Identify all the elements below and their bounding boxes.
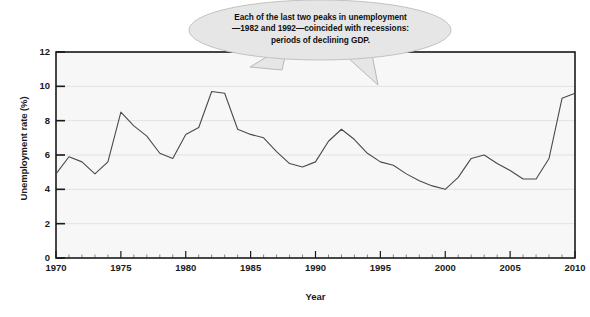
x-tick-label-1995: 1995	[360, 262, 400, 273]
recession-callout: Each of the last two peaks in unemployme…	[192, 1, 449, 65]
callout-text: Each of the last two peaks in unemployme…	[192, 12, 449, 46]
x-tick-label-1980: 1980	[166, 262, 206, 273]
x-tick-label-2000: 2000	[425, 262, 465, 273]
x-tick-label-2010: 2010	[555, 262, 590, 273]
y-tick-label-4: 4	[28, 184, 50, 194]
x-tick-label-2005: 2005	[490, 262, 530, 273]
y-tick-label-6: 6	[28, 150, 50, 160]
y-axis-title: Unemployment rate (%)	[18, 49, 29, 249]
x-axis-title: Year	[56, 291, 575, 302]
x-tick-label-1990: 1990	[296, 262, 336, 273]
y-tick-label-2: 2	[28, 219, 50, 229]
y-tick-label-10: 10	[28, 81, 50, 91]
x-tick-label-1975: 1975	[101, 262, 141, 273]
x-tick-label-1970: 1970	[36, 262, 76, 273]
x-tick-label-1985: 1985	[231, 262, 271, 273]
y-tick-label-12: 12	[28, 47, 50, 57]
y-tick-label-8: 8	[28, 116, 50, 126]
